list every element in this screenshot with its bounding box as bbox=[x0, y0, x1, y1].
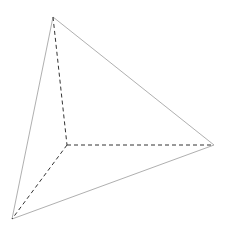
edge-center-bottom_left-hidden bbox=[12, 145, 67, 219]
edge-top-center-hidden bbox=[53, 17, 67, 145]
edge-top-right-visible bbox=[53, 17, 214, 145]
tetrahedron-diagram bbox=[0, 0, 229, 232]
edge-top-bottom_left-visible bbox=[12, 17, 53, 219]
edge-bottom_left-right-visible bbox=[12, 145, 214, 219]
